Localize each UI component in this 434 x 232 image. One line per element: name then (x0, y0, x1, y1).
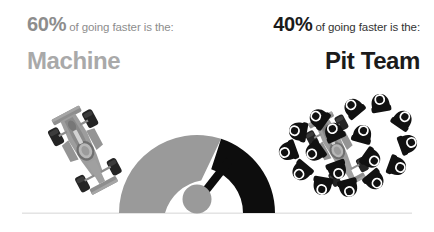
crew-member (350, 123, 374, 146)
crew-member (311, 175, 334, 196)
pit-crew-around-car-icon (276, 92, 420, 199)
speedometer-gauge (119, 135, 275, 214)
crew-member (385, 154, 409, 179)
crew-member (287, 120, 308, 143)
formula-one-car-icon (43, 101, 127, 200)
crew-member (276, 139, 300, 164)
infographic-root: 60% of going faster is the: Machine 40% … (0, 0, 434, 232)
gauge-hub (183, 185, 212, 214)
crew-member (396, 131, 420, 156)
crew-member (369, 92, 392, 113)
infographic-artwork (0, 0, 434, 232)
crew-member (389, 107, 416, 133)
crew-member (288, 158, 315, 185)
baseline-rule (22, 213, 412, 214)
crew-member (340, 94, 367, 121)
